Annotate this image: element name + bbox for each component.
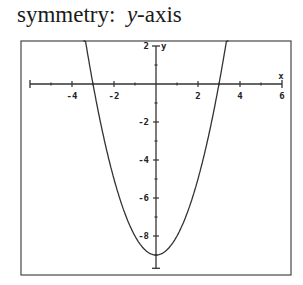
y-tick-label: -2 xyxy=(138,117,149,127)
y-tick-label: -8 xyxy=(138,231,149,241)
x-tick-label: -2 xyxy=(109,91,120,101)
x-tick-label: 2 xyxy=(195,91,200,101)
graph: -4-22462-2-4-6-8xy xyxy=(0,0,303,285)
y-tick-label: -4 xyxy=(138,155,149,165)
axes xyxy=(30,46,282,268)
y-axis-label: y xyxy=(161,41,167,51)
x-tick-label: -4 xyxy=(67,91,78,101)
tick-labels: -4-22462-2-4-6-8xy xyxy=(67,41,285,241)
y-tick-label: 2 xyxy=(144,41,149,51)
y-tick-label: -6 xyxy=(138,193,149,203)
x-tick-label: 4 xyxy=(237,91,243,101)
x-tick-label: 6 xyxy=(279,91,284,101)
x-axis-label: x xyxy=(278,71,284,81)
